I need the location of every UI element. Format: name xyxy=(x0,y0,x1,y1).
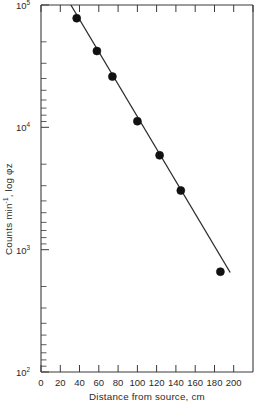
plot-frame xyxy=(41,5,253,372)
data-point xyxy=(93,47,101,55)
y-tick-label: 103 xyxy=(16,244,31,256)
x-tick-label: 180 xyxy=(207,377,223,388)
x-axis-title: Distance from source, cm xyxy=(89,391,205,402)
y-axis-minor-ticks xyxy=(41,42,47,366)
data-points xyxy=(73,14,225,276)
data-point xyxy=(133,117,141,125)
x-tick-label: 20 xyxy=(55,377,66,388)
semilog-scatter-plot: 105 104 103 102 0 20 40 60 80 100 120 14… xyxy=(0,0,275,403)
data-point xyxy=(156,151,164,159)
fit-line xyxy=(71,5,230,273)
x-tick-label: 200 xyxy=(226,377,242,388)
y-tick-labels: 105 104 103 102 xyxy=(16,0,31,378)
x-axis-ticks xyxy=(41,365,234,372)
x-tick-labels: 0 20 40 60 80 100 120 140 160 180 200 xyxy=(38,377,241,388)
y-tick-label: 104 xyxy=(16,121,31,133)
x-tick-label: 120 xyxy=(149,377,165,388)
x-tick-label: 140 xyxy=(168,377,184,388)
data-point xyxy=(216,268,224,276)
y-tick-label: 105 xyxy=(16,0,31,11)
data-point xyxy=(73,14,81,22)
x-tick-label: 40 xyxy=(74,377,85,388)
data-point xyxy=(108,73,116,81)
x-tick-label: 60 xyxy=(94,377,105,388)
y-axis-title: Counts min-1, log φz xyxy=(2,163,14,255)
y-axis-major-ticks xyxy=(41,5,49,372)
y-tick-label: 102 xyxy=(16,366,31,378)
chart-figure: 105 104 103 102 0 20 40 60 80 100 120 14… xyxy=(0,0,275,403)
x-tick-label: 100 xyxy=(129,377,145,388)
x-tick-label: 0 xyxy=(38,377,43,388)
data-point xyxy=(177,187,185,195)
x-tick-label: 160 xyxy=(187,377,203,388)
x-tick-label: 80 xyxy=(113,377,124,388)
